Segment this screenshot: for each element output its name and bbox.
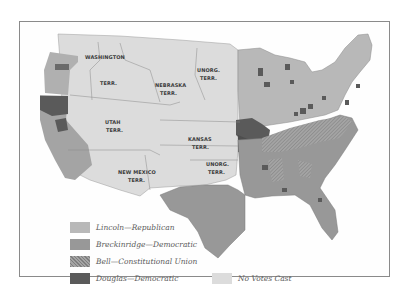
breckinridge-swatch [70, 239, 90, 250]
legend-label-bell: Bell—Constitutional Union [96, 257, 197, 266]
legend-item-breckinridge: Breckinridge—Democratic [70, 239, 197, 250]
election-map: WASHINGTON TERR. NEBRASKA TERR. UNORG. T… [0, 0, 418, 306]
label-nebraska-terr: TERR. [160, 90, 177, 96]
legend-item-no-votes: No Votes Cast [212, 273, 291, 284]
label-washington: WASHINGTON [85, 54, 125, 60]
no-votes-swatch [212, 273, 232, 284]
label-nebraska: NEBRASKA [155, 82, 186, 88]
label-unorg-north-terr: TERR. [200, 75, 217, 81]
legend-item-douglas: Douglas—Democratic [70, 273, 178, 284]
legend-item-bell: Bell—Constitutional Union [70, 256, 197, 267]
label-utah: UTAH [105, 119, 121, 125]
legend-label-lincoln: Lincoln—Republican [96, 223, 174, 232]
legend-label-douglas: Douglas—Democratic [96, 274, 178, 283]
legend-item-lincoln: Lincoln—Republican [70, 222, 174, 233]
label-kansas: KANSAS [188, 136, 212, 142]
label-new-mexico: NEW MEXICO [118, 169, 156, 175]
lincoln-swatch [70, 222, 90, 233]
legend-label-no-votes: No Votes Cast [238, 274, 291, 283]
legend-label-breckinridge: Breckinridge—Democratic [96, 240, 197, 249]
douglas-swatch [70, 273, 90, 284]
label-kansas-terr: TERR. [192, 144, 209, 150]
label-unorg-south: UNORG. [206, 161, 229, 167]
label-new-mexico-terr: TERR. [128, 177, 145, 183]
region-douglas-oregon-north [55, 64, 69, 70]
label-utah-terr: TERR. [106, 127, 123, 133]
label-unorg-south-terr: TERR. [208, 169, 225, 175]
bell-swatch [70, 256, 90, 267]
label-unorg-north: UNORG. [197, 67, 220, 73]
label-washington-terr: TERR. [100, 80, 117, 86]
